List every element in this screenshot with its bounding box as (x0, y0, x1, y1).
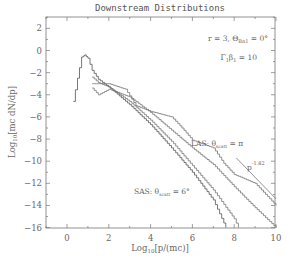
x-tick-label: 4 (148, 233, 153, 243)
y-tick-label: 0 (37, 46, 42, 56)
y-tick-label: −12 (24, 178, 42, 188)
annotation-lorentz: Γ1β1 = 10 (220, 53, 257, 63)
annotation-power-law: p-1.82 (247, 160, 265, 172)
y-axis-title: Log10[mc dN/dp] (7, 86, 18, 158)
y-tick-label: −4 (29, 90, 42, 100)
annotation-las: LAS: θscatt = π (191, 139, 243, 149)
x-tick-label: 6 (190, 233, 195, 243)
y-tick-label: −6 (29, 112, 42, 122)
y-tick-label: −14 (24, 200, 42, 210)
y-tick-label: −8 (29, 134, 42, 144)
chart-title: Downstream Distributions (95, 3, 225, 13)
curve-2 (92, 88, 276, 228)
x-tick-label: 0 (64, 233, 69, 243)
annotation-params: r = 3, ΘBn1 = 0° (208, 34, 268, 44)
y-tick-label: −10 (24, 156, 42, 166)
data-curves (73, 55, 276, 228)
y-tick-label: 2 (37, 23, 42, 33)
chart: Downstream Distributions 024681020−2−4−6… (0, 0, 289, 268)
x-tick-label: 2 (106, 233, 111, 243)
x-tick-label: 8 (231, 233, 236, 243)
annotation-sas: SAS: θscatt = 6° (134, 187, 190, 197)
y-tick-label: −2 (29, 68, 42, 78)
x-tick-label: 10 (271, 233, 282, 243)
x-axis-title: Log10[p/(mc)] (131, 243, 189, 254)
y-tick-label: −16 (24, 223, 42, 233)
curve-1 (92, 77, 238, 228)
